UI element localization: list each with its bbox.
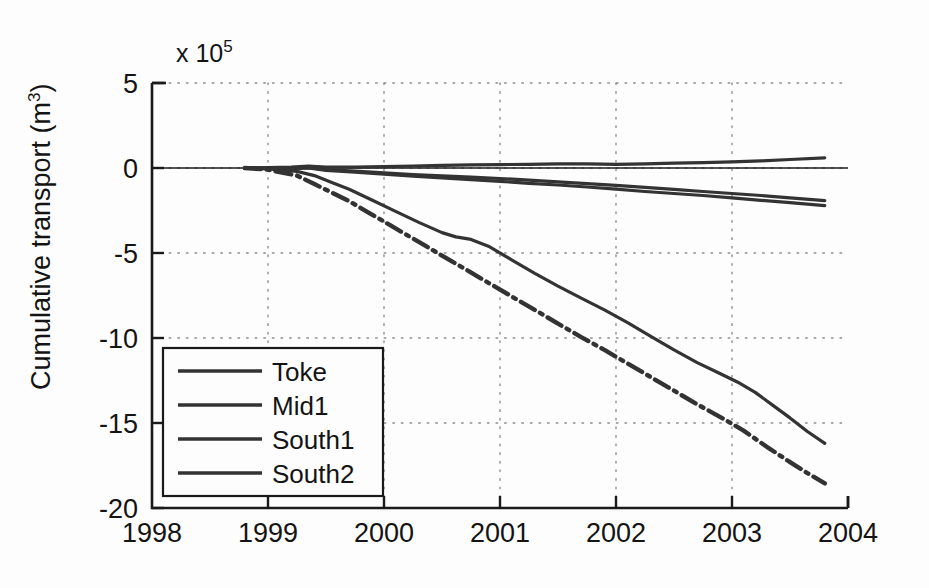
y-axis-title-main: Cumulative transport (m bbox=[26, 102, 56, 390]
x-tick-labels: 1998199920002001200220032004 bbox=[122, 518, 878, 548]
legend-label-toke[interactable]: Toke bbox=[272, 357, 327, 387]
y-tick-label: -15 bbox=[99, 409, 138, 439]
cumulative-transport-chart: 50-5-10-15-20 19981999200020012002200320… bbox=[0, 0, 929, 588]
x-tick-label: 1999 bbox=[238, 518, 298, 548]
x-tick-label: 2002 bbox=[586, 518, 646, 548]
legend-label-south1[interactable]: South1 bbox=[272, 425, 354, 455]
x-tick-label: 2003 bbox=[702, 518, 762, 548]
y-tick-labels: 50-5-10-15-20 bbox=[99, 69, 138, 524]
legend[interactable]: TokeMid1South1South2 bbox=[163, 348, 383, 496]
y-tick-label: 5 bbox=[123, 69, 138, 99]
x-tick-label: 2004 bbox=[818, 518, 878, 548]
x-tick-label: 1998 bbox=[122, 518, 182, 548]
x-tick-label: 2001 bbox=[470, 518, 530, 548]
y-tick-label: 0 bbox=[123, 154, 138, 184]
y-tick-label: -5 bbox=[114, 239, 138, 269]
legend-label-south2[interactable]: South2 bbox=[272, 459, 354, 489]
exponent-prefix: x 10 bbox=[176, 39, 223, 67]
y-axis-title-close: ) bbox=[26, 83, 56, 92]
figure-container: 50-5-10-15-20 19981999200020012002200320… bbox=[0, 0, 929, 588]
y-axis-title: Cumulative transport (m3) bbox=[25, 83, 56, 390]
x-tick-label: 2000 bbox=[354, 518, 414, 548]
exponent-power: 5 bbox=[223, 37, 232, 56]
y-axis-exponent-label: x 105 bbox=[176, 37, 233, 67]
y-tick-label: -10 bbox=[99, 324, 138, 354]
y-axis-title-superscript: 3 bbox=[25, 92, 44, 101]
legend-label-mid1[interactable]: Mid1 bbox=[272, 391, 328, 421]
